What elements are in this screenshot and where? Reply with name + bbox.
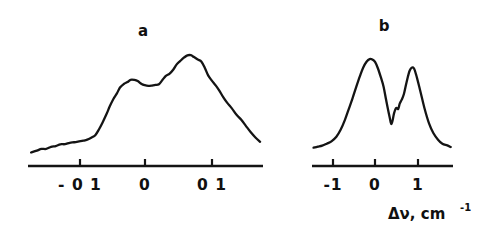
figure-root: - 0 1 0 0 1 a -1 0 1 b Δν, cm -1 [0,0,498,231]
x-tick-label-b-2: 1 [412,176,424,194]
panel-label-b: b [379,17,390,35]
spectrum-trace-b [314,59,451,148]
x-axis-title: Δν, cm [388,205,445,223]
x-tick-label-b-0: -1 [323,176,342,194]
panel-label-a: a [138,22,148,40]
spectrum-trace-a [31,55,260,152]
x-axis-title-exponent: -1 [460,202,471,213]
figure-canvas: - 0 1 0 0 1 a -1 0 1 b Δν, cm -1 [0,0,498,231]
x-tick-label-a-0: - 0 1 [58,176,102,194]
x-tick-label-a-2: 0 1 [197,176,227,194]
panel-a: - 0 1 0 0 1 a [28,22,263,194]
x-tick-label-a-1: 0 [139,176,151,194]
panel-b: -1 0 1 b [312,17,453,194]
x-axis-title-group: Δν, cm -1 [388,202,471,223]
x-tick-label-b-1: 0 [369,176,381,194]
